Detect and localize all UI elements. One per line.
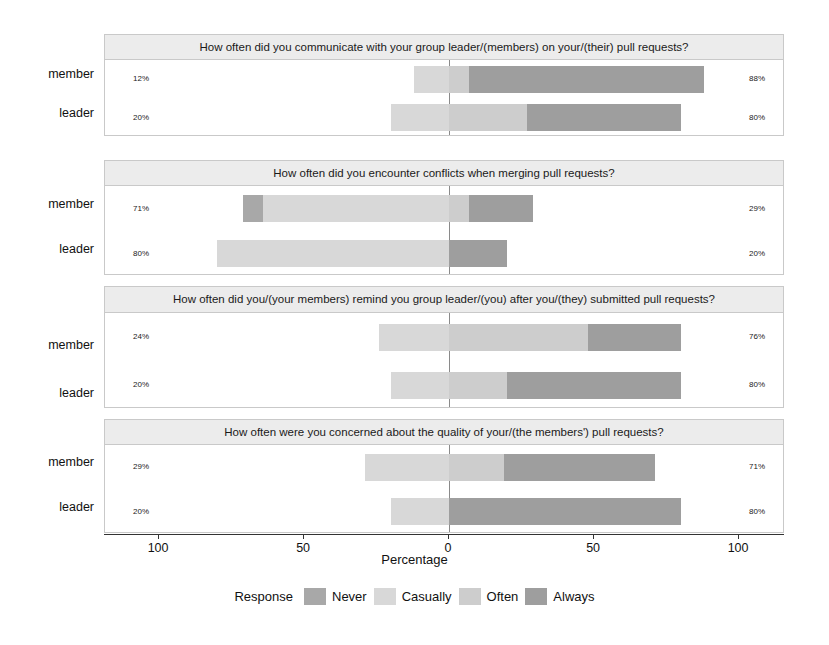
panel-plot-area: 71%29%80%20% <box>104 185 784 275</box>
bar-segment-always <box>527 104 681 131</box>
legend-label: Always <box>553 589 594 604</box>
legend-label: Casually <box>402 589 452 604</box>
legend-swatch-often <box>459 588 481 605</box>
bar-segment-often <box>449 66 469 93</box>
axis-tick <box>158 534 159 539</box>
legend-item-never[interactable]: Never <box>304 588 367 605</box>
right-total-label: 76% <box>749 332 765 341</box>
left-total-label: 12% <box>133 74 149 83</box>
bar-segment-always <box>469 66 704 93</box>
left-total-label: 20% <box>133 507 149 516</box>
right-total-label: 80% <box>749 113 765 122</box>
bar-segment-always <box>507 372 681 399</box>
bar-segment-casually <box>414 66 449 93</box>
right-total-label: 29% <box>749 204 765 213</box>
right-total-label: 20% <box>749 249 765 258</box>
chart-panel: How often were you concerned about the q… <box>104 419 784 533</box>
bar-segment-always <box>504 454 655 481</box>
bar-segment-often <box>449 454 504 481</box>
row-label-member: member <box>48 455 94 469</box>
bar-row <box>105 454 783 481</box>
bar-segment-casually <box>263 195 449 222</box>
axis-tick <box>303 534 304 539</box>
row-label-member: member <box>48 197 94 211</box>
right-total-label: 88% <box>749 74 765 83</box>
left-total-label: 20% <box>133 380 149 389</box>
bar-row <box>105 104 783 131</box>
row-label-leader: leader <box>59 242 94 256</box>
bar-segment-often <box>449 195 469 222</box>
chart-panel: How often did you encounter conflicts wh… <box>104 160 784 275</box>
legend-swatch-always <box>525 588 547 605</box>
row-label-member: member <box>48 338 94 352</box>
bar-segment-always <box>588 324 681 351</box>
row-label-leader: leader <box>59 500 94 514</box>
left-total-label: 20% <box>133 113 149 122</box>
bar-segment-casually <box>365 454 449 481</box>
bar-segment-casually <box>379 324 449 351</box>
legend-item-often[interactable]: Often <box>459 588 519 605</box>
likert-chart: memberleaderHow often did you communicat… <box>0 0 829 645</box>
right-total-label: 71% <box>749 462 765 471</box>
x-axis: 10050050100 <box>104 534 784 535</box>
panel-title: How often did you/(your members) remind … <box>104 286 784 312</box>
left-total-label: 71% <box>133 204 149 213</box>
bar-segment-often <box>449 324 588 351</box>
legend-item-always[interactable]: Always <box>525 588 594 605</box>
panel-plot-area: 29%71%20%80% <box>104 444 784 533</box>
bar-row <box>105 195 783 222</box>
bar-segment-often <box>449 372 507 399</box>
legend-swatch-casually <box>374 588 396 605</box>
bar-segment-casually <box>391 498 449 525</box>
right-total-label: 80% <box>749 507 765 516</box>
legend-title: Response <box>234 589 293 604</box>
bar-row <box>105 372 783 399</box>
left-total-label: 80% <box>133 249 149 258</box>
row-label-member: member <box>48 67 94 81</box>
legend-item-casually[interactable]: Casually <box>374 588 452 605</box>
right-total-label: 80% <box>749 380 765 389</box>
row-label-leader: leader <box>59 106 94 120</box>
chart-panel: How often did you communicate with your … <box>104 34 784 136</box>
left-total-label: 29% <box>133 462 149 471</box>
bar-row <box>105 66 783 93</box>
bar-row <box>105 240 783 267</box>
bar-segment-always <box>449 498 681 525</box>
axis-tick <box>448 534 449 539</box>
panel-title: How often were you concerned about the q… <box>104 419 784 444</box>
bar-segment-often <box>449 104 527 131</box>
panel-title: How often did you encounter conflicts wh… <box>104 160 784 185</box>
chart-legend: Response NeverCasuallyOftenAlways <box>0 588 829 605</box>
bar-row <box>105 324 783 351</box>
x-axis-title: Percentage <box>0 552 829 567</box>
bar-segment-always <box>449 240 507 267</box>
bar-row <box>105 498 783 525</box>
panel-plot-area: 24%76%20%80% <box>104 312 784 408</box>
bar-segment-always <box>469 195 533 222</box>
legend-swatch-never <box>304 588 326 605</box>
axis-tick <box>738 534 739 539</box>
bar-segment-casually <box>391 372 449 399</box>
bar-segment-never <box>243 195 263 222</box>
row-label-leader: leader <box>59 386 94 400</box>
bar-segment-casually <box>391 104 449 131</box>
legend-label: Often <box>487 589 519 604</box>
axis-tick <box>593 534 594 539</box>
panel-title: How often did you communicate with your … <box>104 34 784 59</box>
panel-plot-area: 12%88%20%80% <box>104 59 784 136</box>
chart-panel: How often did you/(your members) remind … <box>104 286 784 408</box>
left-total-label: 24% <box>133 332 149 341</box>
bar-segment-casually <box>217 240 449 267</box>
legend-label: Never <box>332 589 367 604</box>
